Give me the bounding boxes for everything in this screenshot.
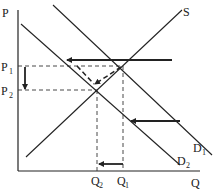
svg-text:D: D: [193, 141, 202, 155]
demand-curve-2: [21, 24, 180, 165]
equilibrium-move-arrow-2: [95, 67, 121, 84]
supply-demand-diagram: P Q S D 1 D 2 P 1 P 2 Q 2 Q 1: [0, 0, 214, 191]
svg-text:2: 2: [9, 91, 13, 100]
y-axis-label: P: [2, 6, 9, 20]
arrows: [25, 60, 180, 164]
supply-label: S: [183, 5, 190, 19]
q2-label: Q 2: [91, 174, 103, 190]
d2-label: D 2: [177, 154, 190, 170]
svg-text:P: P: [1, 60, 8, 74]
svg-text:2: 2: [99, 181, 103, 190]
d1-label: D 1: [193, 141, 206, 157]
curves: [21, 5, 212, 165]
p1-label: P 1: [1, 60, 13, 76]
svg-text:1: 1: [125, 181, 129, 190]
guide-lines: [18, 66, 123, 171]
q1-label: Q 1: [117, 174, 129, 190]
svg-text:D: D: [177, 154, 186, 168]
svg-text:P: P: [1, 84, 8, 98]
demand-curve-1: [53, 5, 212, 155]
supply-curve: [26, 10, 182, 157]
x-axis-label: Q: [191, 176, 200, 190]
svg-text:1: 1: [9, 67, 13, 76]
svg-text:1: 1: [202, 148, 206, 157]
svg-text:2: 2: [186, 161, 190, 170]
p2-label: P 2: [1, 84, 13, 100]
